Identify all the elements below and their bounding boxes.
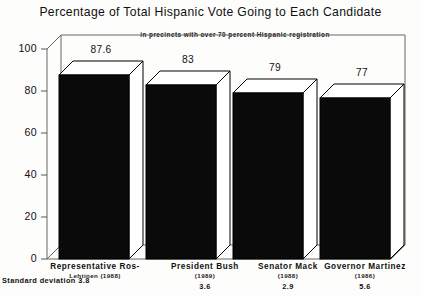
category-name-4: Governor Martinez — [310, 262, 420, 272]
y-tick-60: 60 — [3, 126, 37, 138]
bar-value-label-1: 87.6 — [66, 44, 136, 55]
category-year-4: (1986) — [310, 272, 420, 280]
y-tick-100: 100 — [3, 42, 37, 54]
plot-area — [0, 0, 421, 296]
y-tick-20: 20 — [3, 210, 37, 222]
category-sd-4: 5.6 — [310, 282, 420, 291]
chart-container: Percentage of Total Hispanic Vote Going … — [0, 0, 421, 296]
bar-value-label-4: 77 — [327, 67, 397, 78]
bar-president-bush[interactable] — [146, 71, 230, 259]
standard-deviation-label: Standard deviation — [2, 276, 76, 285]
category-label-governor-martinez: Governor Martinez (1986) 5.6 — [310, 262, 420, 291]
bar-representative-ros-lehtinen[interactable] — [59, 61, 143, 259]
bar-value-label-3: 79 — [240, 62, 310, 73]
bar-value-label-2: 83 — [153, 54, 223, 65]
y-tick-80: 80 — [3, 84, 37, 96]
bar-senator-mack[interactable] — [233, 79, 317, 259]
bar-governor-martinez[interactable] — [320, 84, 404, 259]
y-axis-ticks — [41, 49, 47, 259]
standard-deviation-value-1: 3.8 — [78, 276, 89, 285]
standard-deviation-caption: Standard deviation 3.8 — [2, 276, 90, 285]
y-tick-40: 40 — [3, 168, 37, 180]
